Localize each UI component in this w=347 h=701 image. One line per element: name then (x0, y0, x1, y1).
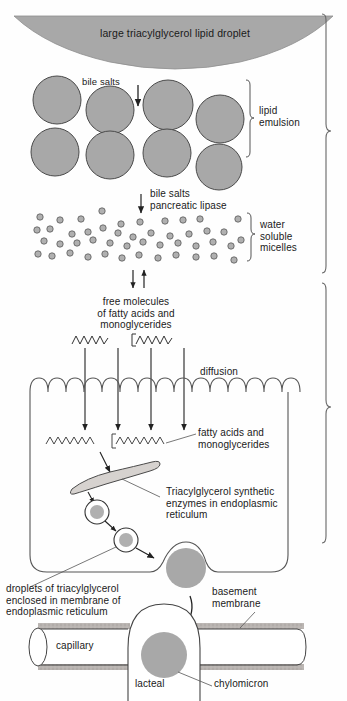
micelle (130, 234, 136, 240)
free-fatty-acid-zigzag (72, 336, 108, 344)
micelle (228, 243, 234, 249)
arrow-to-er (100, 452, 110, 472)
micelle (193, 254, 199, 260)
micelle (99, 208, 105, 214)
micelle (231, 257, 237, 263)
endoplasmic-reticulum (70, 461, 160, 494)
micelle (37, 214, 43, 220)
micelle (85, 254, 91, 260)
capillary-right (190, 623, 306, 670)
emulsion-droplet (196, 95, 244, 143)
micelle (137, 219, 143, 225)
label-lacteal: lacteal (135, 678, 165, 690)
micelle (167, 233, 173, 239)
micelle (102, 251, 108, 257)
micelle (57, 241, 63, 247)
emulsion-droplet (143, 80, 193, 130)
micelle (140, 239, 146, 245)
micelle (238, 237, 244, 243)
label-basement-membrane: basement membrane (212, 586, 261, 609)
emulsion-droplet (143, 129, 191, 177)
micelle (41, 238, 47, 244)
micelle (204, 228, 210, 234)
lipid-absorption-diagram: large triacylglycerol lipid droplet bile… (0, 0, 347, 701)
chylomicron-exiting (166, 548, 206, 588)
label-bile-salts-pancreatic-lipase: bile salts pancreatic lipase (150, 188, 227, 211)
micelle (78, 216, 84, 222)
basement-membrane-strip (190, 623, 304, 629)
micelle (211, 253, 217, 259)
micelle (107, 240, 113, 246)
bracket-water-soluble-micelles (247, 213, 255, 261)
emulsion-droplet (196, 144, 242, 190)
diffusion-arrows (85, 348, 184, 430)
tag-droplet-vesicle-2 (114, 528, 138, 552)
micelle (69, 231, 75, 237)
micelle (175, 240, 181, 246)
emulsion-droplet (86, 131, 134, 179)
bracket-lipid-emulsion (246, 80, 254, 157)
micelle (197, 216, 203, 222)
micelle (210, 239, 216, 245)
emulsion-droplet (86, 86, 134, 134)
intracellular-fatty-acid-zigzag (46, 437, 94, 444)
micelle (235, 216, 241, 222)
chylomicron-in-lacteal (141, 632, 187, 678)
arrow-vesicle1-to-vesicle2 (105, 521, 116, 531)
micelle (124, 243, 130, 249)
micelle (155, 255, 161, 261)
label-capillary: capillary (56, 640, 94, 652)
micelle (193, 243, 199, 249)
micelle (118, 221, 124, 227)
basement-membrane-strip (38, 623, 130, 629)
label-chylomicron: chylomicron (214, 678, 268, 690)
large-lipid-droplet (14, 16, 333, 69)
label-diffusion: diffusion (200, 366, 238, 378)
label-free-molecules: free molecules of fatty acids and monogl… (78, 296, 194, 331)
micelle (57, 217, 63, 223)
water-soluble-micelles (34, 208, 244, 263)
micelle (157, 242, 163, 248)
micelle (49, 253, 55, 259)
outer-bracket-lower (322, 283, 331, 543)
label-fatty-acids-monoglycerides: fatty acids and monoglycerides (198, 427, 269, 450)
micelle (115, 230, 121, 236)
capillary-lumen-opening (29, 628, 47, 666)
label-large-lipid-droplet: large triacylglycerol lipid droplet (60, 28, 290, 40)
micelle (180, 217, 186, 223)
epithelial-cell-outline (30, 378, 300, 572)
micelle (119, 255, 125, 261)
micelle (148, 230, 154, 236)
micelle (186, 231, 192, 237)
label-lipid-emulsion: lipid emulsion (259, 105, 300, 128)
intracellular-monoglyceride-zigzag (112, 434, 164, 448)
arrow-vesicle2-to-exocytosis (136, 548, 154, 558)
micelle (100, 225, 106, 231)
micelle (74, 240, 80, 246)
micelle (47, 226, 53, 232)
micelle (67, 250, 73, 256)
micelle (221, 229, 227, 235)
label-tag-synthetic-enzymes: Triacylglycerol synthetic enzymes in end… (166, 486, 278, 521)
micelle (136, 252, 142, 258)
micelle (90, 237, 96, 243)
er-label-leader (122, 479, 160, 497)
fatty-acid-label-leader (166, 434, 196, 443)
label-water-soluble-micelles: water soluble micelles (260, 219, 297, 254)
free-monoglyceride-zigzag (132, 334, 172, 346)
micelle (34, 227, 40, 233)
micelle (173, 252, 179, 258)
micelle (85, 229, 91, 235)
tag-droplet-vesicle-1 (85, 500, 109, 524)
equilibrium-arrows (133, 270, 144, 288)
outer-bracket-upper (322, 14, 331, 273)
label-bile-salts: bile salts (82, 76, 120, 88)
droplets-label-leader (30, 547, 116, 587)
micelle (162, 218, 168, 224)
micelle (35, 251, 41, 257)
emulsion-droplet (33, 76, 81, 124)
label-droplets-of-triacylglycerol: droplets of triacylglycerol enclosed in … (6, 583, 121, 618)
emulsion-droplet (31, 128, 79, 176)
